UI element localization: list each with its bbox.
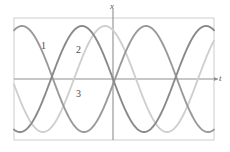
curve-label-1: 1 — [41, 41, 46, 51]
t-axis-arrow — [214, 77, 218, 81]
curve-label-3: 3 — [76, 89, 81, 99]
axis-label-t: t — [219, 74, 222, 83]
figure-container: x t 1 2 3 — [0, 0, 230, 152]
plot-canvas — [0, 0, 230, 152]
curve-label-2: 2 — [76, 45, 81, 55]
axis-label-x: x — [110, 2, 114, 11]
